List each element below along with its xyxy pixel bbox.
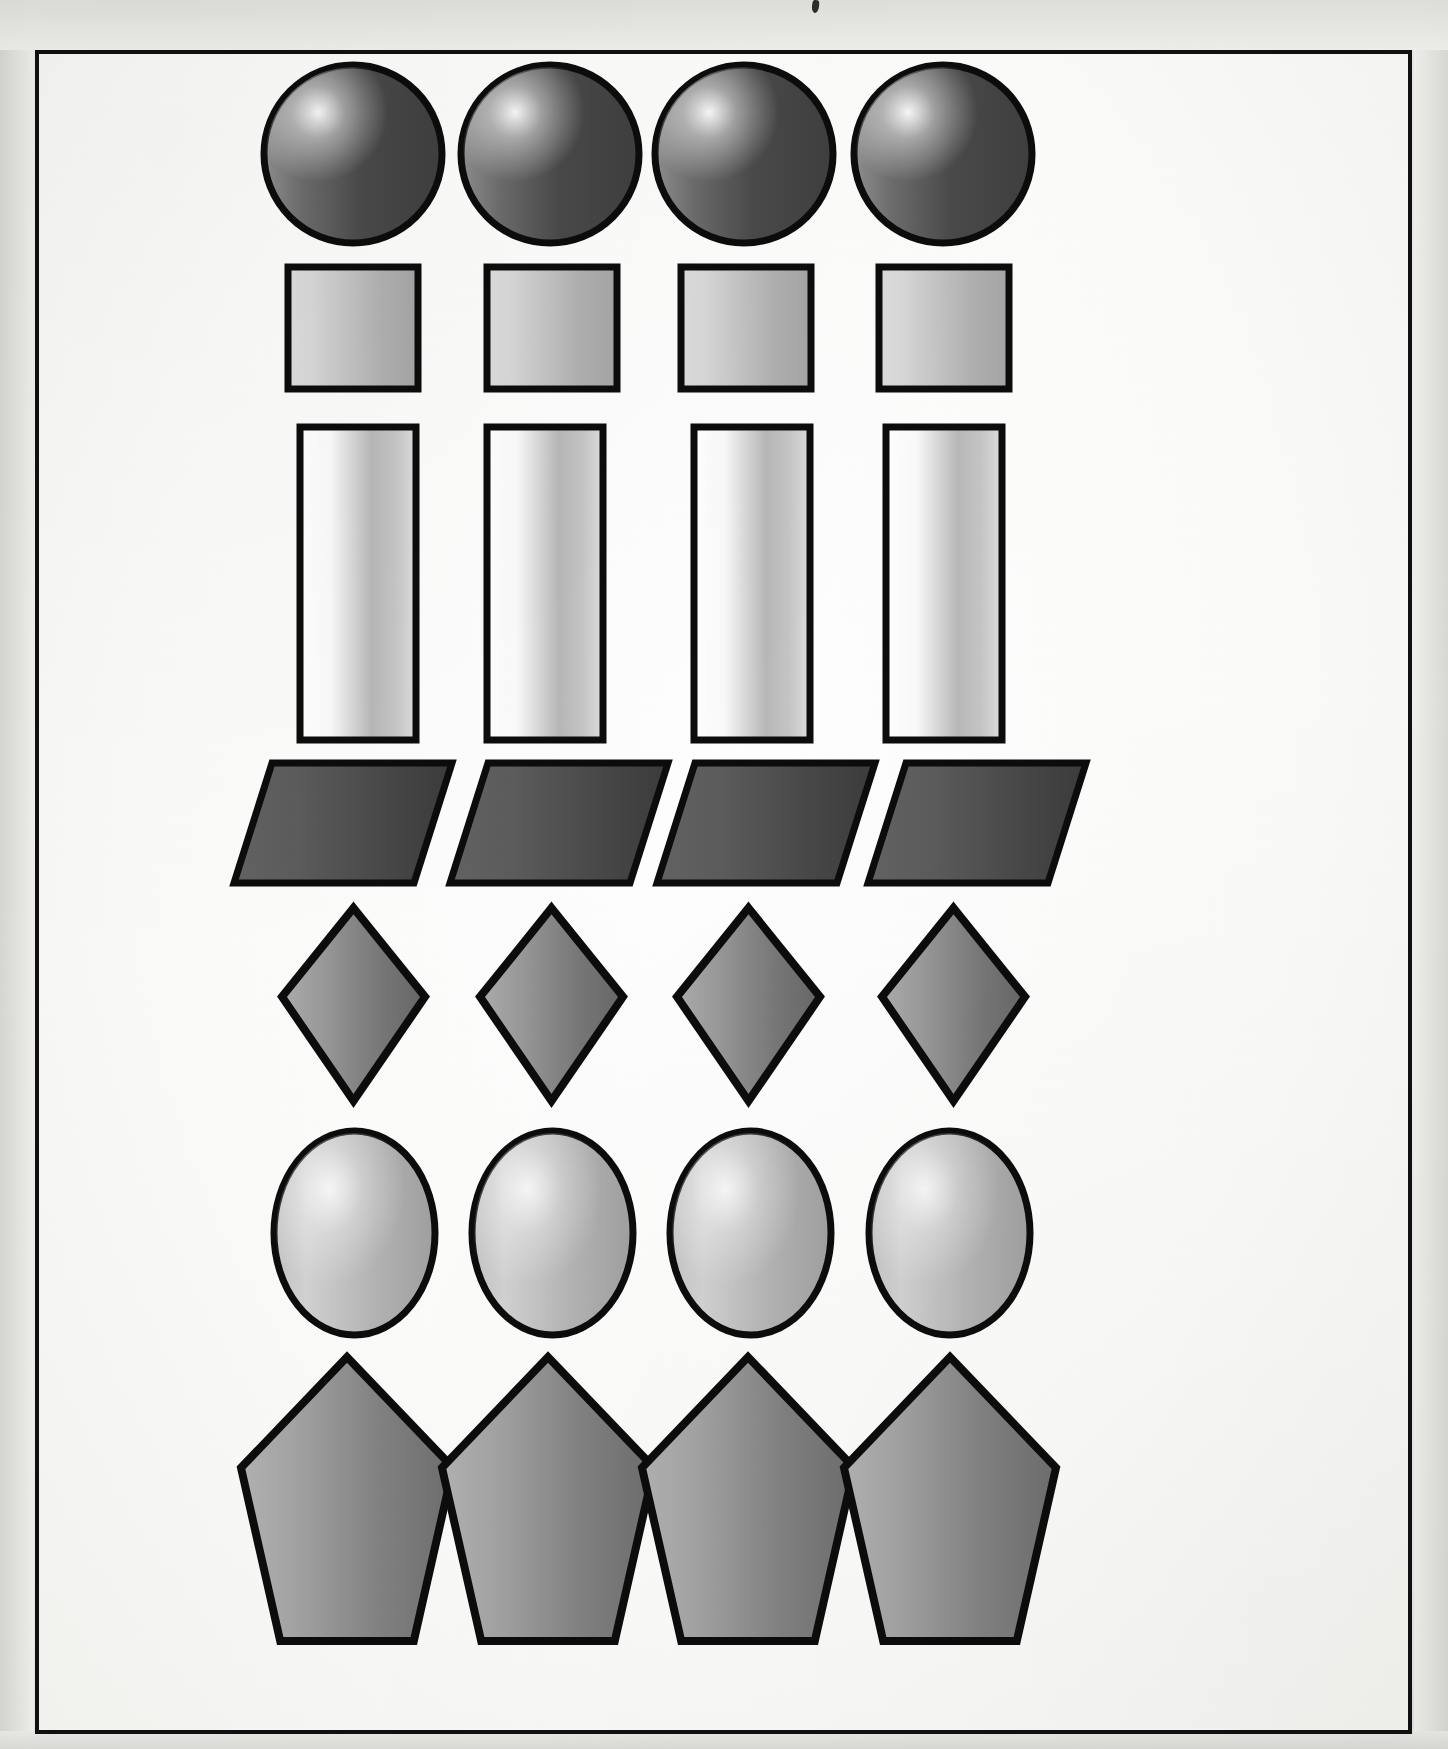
scanned-page	[0, 0, 1448, 1749]
frame-inner-tint	[39, 54, 1408, 1730]
page-border	[35, 50, 1412, 1734]
right-scan-edge	[1414, 0, 1448, 1749]
left-scan-edge	[0, 0, 34, 1749]
top-scan-band	[0, 0, 1448, 50]
